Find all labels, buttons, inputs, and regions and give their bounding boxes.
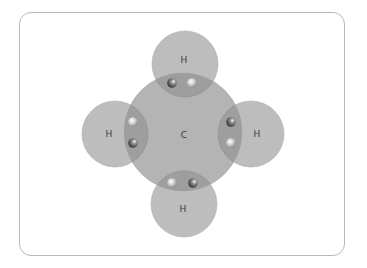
electron-top-1: [167, 78, 177, 88]
electron-right-1: [226, 117, 236, 127]
atom-label-bottom: H: [180, 204, 187, 214]
atom-label-right: H: [254, 129, 261, 139]
electron-left-2: [128, 138, 138, 148]
electron-bottom-2: [188, 178, 198, 188]
electron-right-2: [226, 138, 236, 148]
atom-label-top: H: [181, 55, 188, 65]
electron-bottom-1: [167, 178, 177, 188]
atom-label-left: H: [106, 129, 113, 139]
electron-left-1: [128, 117, 138, 127]
atom-label-center: C: [181, 130, 187, 140]
electron-top-2: [187, 78, 197, 88]
methane-bonding-diagram: H H H H C: [0, 0, 367, 268]
